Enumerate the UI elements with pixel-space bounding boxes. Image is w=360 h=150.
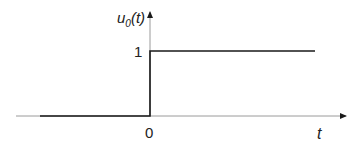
y-axis-label-tail: (t) [131, 9, 145, 26]
step-function-plot [0, 0, 360, 150]
y-tick-label-1: 1 [134, 44, 142, 59]
step-signal-line [40, 51, 315, 116]
x-axis-label: t [317, 126, 321, 142]
x-tick-label-0: 0 [145, 125, 153, 140]
y-axis-label: u0(t) [117, 10, 145, 29]
